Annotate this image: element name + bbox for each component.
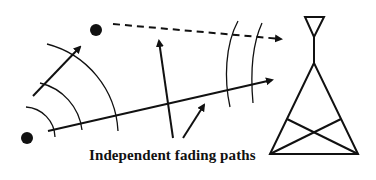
diagram-caption: Independent fading paths [0, 147, 376, 164]
pointer-arrow-left [159, 41, 173, 138]
scatterer-dot [90, 24, 102, 36]
pointer-arrow-right [183, 105, 204, 138]
wavefront-arcs-right [226, 21, 262, 107]
direct-path-arrow [48, 80, 272, 131]
transmitter-dot [21, 132, 33, 144]
antenna-tower-icon [270, 17, 358, 154]
wavefront-arcs [26, 44, 118, 137]
wavefront-normal-arrow [33, 47, 80, 96]
reflected-path-arrow [113, 24, 281, 39]
